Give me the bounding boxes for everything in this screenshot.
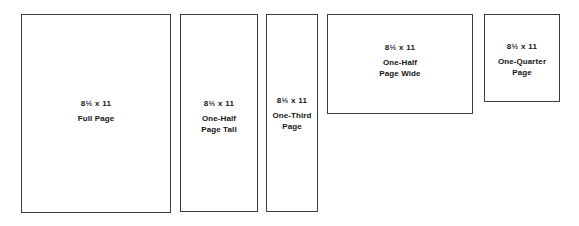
ad-box-label: 8½ x 11 One-Half Page Tall	[181, 98, 257, 136]
ad-box-name-line-1: One-Quarter	[498, 56, 546, 68]
ad-box-name-line-1: One-Half	[383, 57, 417, 69]
ad-box-dimensions: 8½ x 11	[385, 42, 416, 54]
ad-box-name-line-2: Page Wide	[379, 68, 420, 80]
ad-box-name-line-1: Full Page	[78, 113, 114, 125]
ad-box-dimensions: 8½ x 11	[204, 98, 235, 110]
ad-box-full-page[interactable]: 8½ x 11 Full Page	[21, 14, 171, 213]
ad-box-dimensions: 8½ x 11	[507, 41, 538, 53]
ad-box-third-page[interactable]: 8½ x 11 One-Third Page	[266, 14, 318, 212]
ad-box-label: 8½ x 11 One-Third Page	[267, 95, 317, 133]
ad-box-name-line-2: Page	[512, 67, 532, 79]
ad-box-name-line-2: Page Tall	[201, 124, 236, 136]
ad-box-name-line-1: One-Half	[202, 113, 236, 125]
ad-box-label: 8½ x 11 One-Half Page Wide	[328, 42, 472, 80]
ad-box-half-page-wide[interactable]: 8½ x 11 One-Half Page Wide	[327, 14, 473, 114]
ad-box-half-page-tall[interactable]: 8½ x 11 One-Half Page Tall	[180, 14, 258, 212]
ad-box-label: 8½ x 11 One-Quarter Page	[485, 41, 559, 79]
ad-box-label: 8½ x 11 Full Page	[22, 98, 170, 124]
ad-box-dimensions: 8½ x 11	[277, 95, 308, 107]
ad-box-name-line-1: One-Third	[272, 110, 311, 122]
ad-box-dimensions: 8½ x 11	[81, 98, 112, 110]
ad-box-name-line-2: Page	[282, 121, 302, 133]
ad-box-quarter-page[interactable]: 8½ x 11 One-Quarter Page	[484, 14, 560, 102]
ad-size-diagram: 8½ x 11 Full Page 8½ x 11 One-Half Page …	[0, 0, 579, 226]
